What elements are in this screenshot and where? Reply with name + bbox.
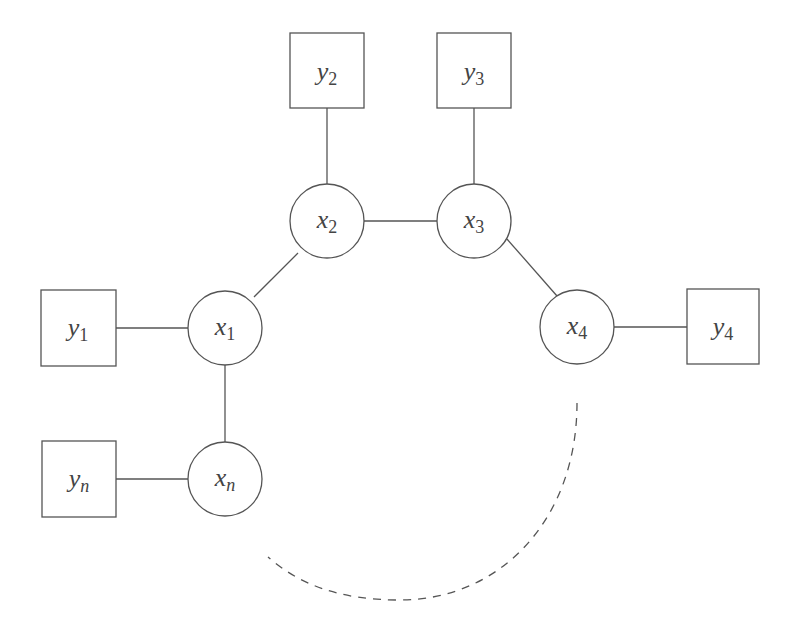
observed-node-y3: y3 [437,33,511,108]
hidden-node-x3: x3 [437,184,511,258]
hidden-node-x1: x1 [188,291,262,365]
hidden-node-xn: xn [188,442,262,516]
edge-x3-x4 [507,239,557,296]
graphical-model-diagram: y2 y3 y1 y4 yn x2 x3 x1 x4 xn [0,0,799,631]
hidden-node-x4: x4 [540,290,614,364]
hidden-node-x2: x2 [290,184,364,258]
dashed-arc-x4-to-xn [268,403,577,600]
edge-x1-x2 [254,253,298,297]
observed-node-yn: yn [42,441,116,517]
observed-node-y1: y1 [41,290,116,366]
observed-node-y4: y4 [687,289,759,364]
observed-node-y2: y2 [290,33,364,108]
